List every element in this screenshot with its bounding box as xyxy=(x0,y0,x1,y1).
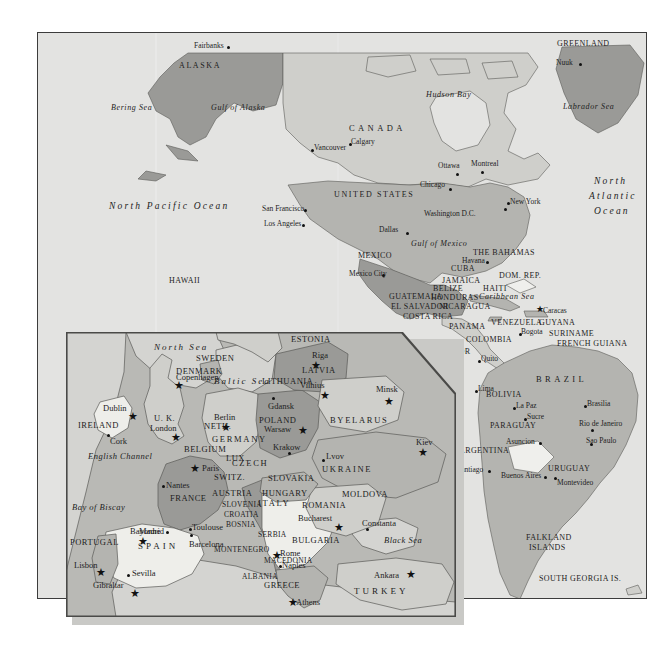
city-marker xyxy=(162,485,165,488)
city-marker xyxy=(544,476,547,479)
city-marker xyxy=(584,405,587,408)
capital-marker: ★ xyxy=(298,425,308,436)
capital-marker: ★ xyxy=(311,360,321,371)
city-marker xyxy=(349,143,352,146)
capital-marker: ★ xyxy=(288,597,298,608)
city-marker xyxy=(478,360,481,363)
city-marker xyxy=(406,232,409,235)
city-marker xyxy=(366,528,369,531)
capital-marker: ★ xyxy=(334,522,344,533)
city-marker xyxy=(302,224,305,227)
city-marker xyxy=(322,459,325,462)
city-marker xyxy=(507,202,510,205)
city-marker xyxy=(481,171,484,174)
capital-marker: ★ xyxy=(130,588,140,599)
city-marker xyxy=(579,63,582,66)
city-marker xyxy=(591,429,594,432)
capital-marker: ★ xyxy=(406,569,416,580)
city-marker xyxy=(107,434,110,437)
landmass-alaska xyxy=(148,53,283,145)
city-marker xyxy=(304,209,307,212)
city-marker xyxy=(488,470,491,473)
city-marker xyxy=(166,531,169,534)
capital-marker: ★ xyxy=(128,411,138,422)
capital-marker: ★ xyxy=(418,447,428,458)
landmass-greenland xyxy=(556,45,644,133)
city-marker xyxy=(227,46,230,49)
city-marker xyxy=(311,149,314,152)
landmass-united-states xyxy=(288,181,530,283)
city-marker xyxy=(189,528,192,531)
city-marker xyxy=(127,574,130,577)
capital-marker: ★ xyxy=(320,390,330,401)
city-marker xyxy=(190,534,193,537)
city-marker xyxy=(272,397,275,400)
capital-marker: ★ xyxy=(384,396,394,407)
city-marker xyxy=(513,407,516,410)
city-marker xyxy=(382,274,385,277)
capital-marker: ★ xyxy=(221,422,231,433)
city-marker xyxy=(590,443,593,446)
capital-marker: ★ xyxy=(174,380,184,391)
capital-marker: ★ xyxy=(171,432,181,443)
city-marker xyxy=(554,477,557,480)
europe-inset-panel: .eln{fill:none;stroke:#5a5a58;stroke-wid… xyxy=(66,332,456,617)
city-marker xyxy=(449,188,452,191)
city-marker xyxy=(539,442,542,445)
capital-marker: ★ xyxy=(190,463,200,474)
city-marker xyxy=(504,208,507,211)
city-marker xyxy=(279,565,282,568)
city-marker xyxy=(486,261,489,264)
capital-marker: ★ xyxy=(138,536,148,547)
city-marker xyxy=(456,173,459,176)
city-marker xyxy=(475,390,478,393)
capital-marker: ★ xyxy=(272,550,282,561)
capital-marker: ★ xyxy=(96,567,106,578)
capital-marker: ★ xyxy=(536,305,544,314)
city-marker xyxy=(288,452,291,455)
island-cuba xyxy=(470,295,520,311)
landmass-south-america xyxy=(478,345,638,598)
city-marker xyxy=(519,333,522,336)
europe-map-graphic: .eln{fill:none;stroke:#5a5a58;stroke-wid… xyxy=(66,332,456,617)
city-marker xyxy=(524,418,527,421)
